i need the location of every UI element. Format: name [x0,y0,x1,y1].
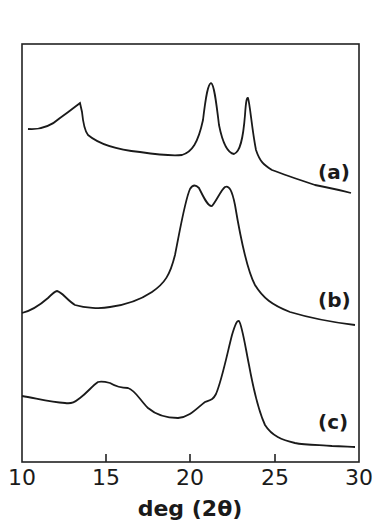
series-label-b: (b) [318,288,351,312]
x-tick-label-20: 20 [176,465,204,490]
x-tick-label-15: 15 [92,465,120,490]
plot-frame [22,44,359,462]
x-tick-label-10: 10 [8,465,36,490]
curve-c [22,321,355,447]
x-axis-ticks [106,454,275,462]
curve-a [28,83,351,193]
series-label-c: (c) [318,410,348,434]
xrd-plot [0,0,380,528]
x-axis-label: deg (2θ) [0,496,380,521]
x-tick-label-30: 30 [345,465,373,490]
series-label-a: (a) [318,160,350,184]
curve-b [22,186,355,326]
x-tick-label-25: 25 [261,465,289,490]
